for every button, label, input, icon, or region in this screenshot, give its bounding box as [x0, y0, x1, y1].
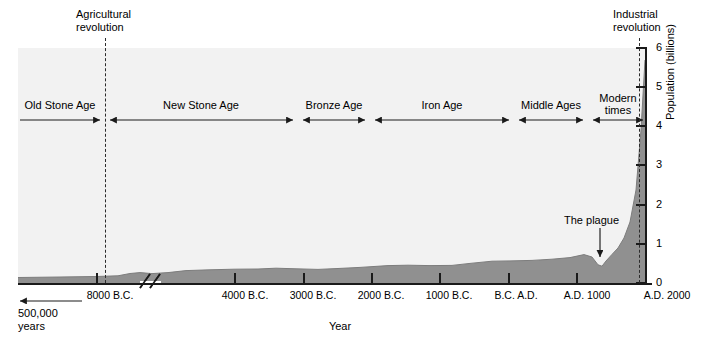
x-tick-label-bcad: B.C. A.D.	[494, 289, 537, 301]
y-axis-title: Population (billions)	[664, 24, 676, 120]
era-label-modern-times-line2: times	[599, 104, 636, 116]
agricultural-revolution-label-line2: revolution	[76, 21, 131, 34]
era-label-modern-times-line1: Modern	[599, 92, 636, 104]
x-axis-title: Year	[329, 320, 351, 332]
era-label-bronze-age: Bronze Age	[306, 99, 363, 111]
industrial-revolution-label: Industrial revolution	[613, 8, 661, 33]
y-tick-label-1: 1	[656, 238, 662, 249]
y-tick-3	[636, 164, 645, 166]
x-tick-label-4000bc: 4000 B.C.	[222, 289, 269, 301]
y-tick-5	[636, 86, 645, 88]
agricultural-revolution-label-line1: Agricultural	[76, 8, 131, 21]
y-tick-label-2: 2	[656, 199, 662, 210]
y-tick-6	[636, 47, 645, 49]
x-tick-ad1000	[576, 273, 578, 284]
x-tick-1000bc	[439, 273, 441, 284]
x-axis-line	[18, 283, 652, 285]
era-label-iron-age: Iron Age	[422, 99, 463, 111]
y-axis-line	[645, 47, 647, 284]
x-tick-label-1000bc: 1000 B.C.	[426, 289, 473, 301]
span-500000-years-line1: 500,000	[18, 307, 58, 320]
x-tick-label-8000bc: 8000 B.C.	[87, 289, 134, 301]
agricultural-revolution-label: Agricultural revolution	[76, 8, 131, 33]
x-tick-bcad	[508, 273, 510, 284]
era-label-modern-times: Modern times	[599, 92, 636, 116]
x-tick-8000bc	[96, 273, 98, 284]
y-tick-label-6: 6	[656, 42, 662, 53]
y-tick-4	[636, 125, 645, 127]
y-tick-label-3: 3	[656, 159, 662, 170]
era-label-new-stone-age: New Stone Age	[163, 99, 239, 111]
plot-background	[18, 48, 646, 283]
x-tick-label-2000bc: 2000 B.C.	[358, 289, 405, 301]
industrial-revolution-line	[639, 38, 640, 283]
y-tick-0	[636, 282, 645, 284]
the-plague-label: The plague	[564, 214, 619, 226]
population-history-chart: 6 5 4 3 2 1 0 Population (billions) 8000…	[0, 0, 708, 344]
x-tick-label-3000bc: 3000 B.C.	[290, 289, 337, 301]
x-tick-label-ad2000: A.D. 2000	[644, 289, 691, 301]
y-tick-label-5: 5	[656, 81, 662, 92]
y-tick-label-0: 0	[656, 277, 662, 288]
span-500000-years-line2: years	[18, 320, 58, 333]
industrial-revolution-label-line1: Industrial	[613, 8, 661, 21]
y-tick-2	[636, 204, 645, 206]
y-tick-label-4: 4	[656, 120, 662, 131]
industrial-revolution-label-line2: revolution	[613, 21, 661, 34]
era-label-middle-ages: Middle Ages	[521, 99, 581, 111]
era-label-old-stone-age: Old Stone Age	[25, 99, 96, 111]
y-tick-1	[636, 243, 645, 245]
x-tick-2000bc	[371, 273, 373, 284]
span-500000-years-label: 500,000 years	[18, 307, 58, 332]
x-tick-3000bc	[303, 273, 305, 284]
agricultural-revolution-line	[105, 38, 106, 283]
x-tick-label-ad1000: A.D. 1000	[564, 289, 611, 301]
x-tick-4000bc	[234, 273, 236, 284]
